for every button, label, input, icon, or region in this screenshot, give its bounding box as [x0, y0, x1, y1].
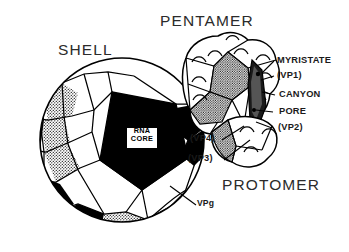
virus-capsid-diagram: SHELL PENTAMER PROTOMER RNA CORE MYRISTA…: [0, 0, 349, 252]
vpg-dot: [137, 151, 144, 157]
shell-title: SHELL: [58, 42, 113, 58]
pore-marker: [252, 108, 256, 112]
callout-myristate: MYRISTATE: [277, 56, 331, 65]
callout-vp4: (VP4): [190, 134, 215, 143]
protomer-assembly: [212, 117, 277, 167]
pentamer-title: PENTAMER: [160, 13, 254, 29]
callout-vp1: (VP1): [277, 71, 302, 80]
callout-pore: PORE: [279, 107, 306, 116]
protomer-title: PROTOMER: [222, 177, 320, 193]
rna-core-label: RNA CORE: [126, 127, 158, 144]
callout-vp2: (VP2): [278, 123, 303, 132]
callout-vp3: (VP3): [188, 154, 213, 163]
myristate-marker: [256, 72, 260, 76]
callout-vpg: VPg: [197, 199, 214, 208]
callout-canyon: CANYON: [279, 90, 321, 99]
rna-core-line2: CORE: [126, 135, 158, 143]
